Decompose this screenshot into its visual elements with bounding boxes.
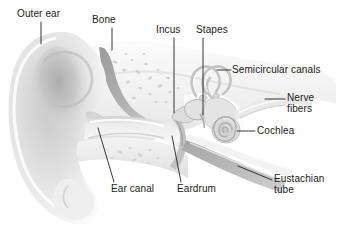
label-eustachian-tube-line2: tube bbox=[274, 184, 294, 195]
label-incus: Incus bbox=[156, 24, 180, 35]
label-eustachian-tube-line1: Eustachian bbox=[274, 173, 324, 184]
label-outer-ear: Outer ear bbox=[17, 8, 60, 19]
label-ear-canal: Ear canal bbox=[111, 183, 154, 194]
label-cochlea: Cochlea bbox=[257, 125, 294, 136]
label-eardrum: Eardrum bbox=[177, 183, 216, 194]
ear-anatomy-illustration bbox=[0, 0, 343, 235]
cochlea bbox=[212, 117, 240, 143]
label-stapes: Stapes bbox=[196, 24, 228, 35]
label-nerve-fibers-line2: fibers bbox=[287, 103, 312, 114]
label-bone: Bone bbox=[92, 14, 116, 25]
ear-anatomy-diagram: Outer ear Bone Incus Stapes Semicircular… bbox=[0, 0, 343, 235]
label-semicircular-canals: Semicircular canals bbox=[232, 64, 321, 75]
label-nerve-fibers-line1: Nerve bbox=[287, 92, 314, 103]
